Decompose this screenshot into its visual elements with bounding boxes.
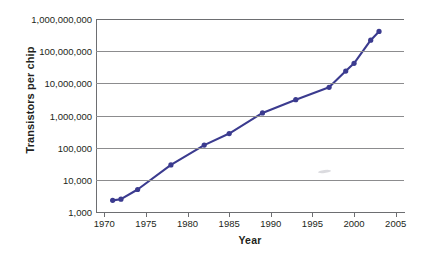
x-axis-tick (104, 213, 105, 217)
gridline (96, 19, 404, 20)
x-axis-tick-label: 1985 (209, 218, 249, 229)
x-axis-tick (146, 213, 147, 217)
data-point-marker (376, 29, 381, 34)
data-point-marker (135, 187, 140, 192)
data-point-marker (227, 131, 232, 136)
x-axis-tick-label: 2005 (376, 218, 416, 229)
y-axis-tick-label: 10,000,000 (0, 78, 92, 89)
gridline (96, 180, 404, 181)
gridline (96, 51, 404, 52)
data-point-marker (368, 38, 373, 43)
x-axis-tick (271, 213, 272, 217)
x-axis-tick-label: 1990 (251, 218, 291, 229)
x-axis-tick (188, 213, 189, 217)
x-axis-tick-label: 1970 (84, 218, 124, 229)
gridline (96, 83, 404, 84)
data-point-marker (343, 69, 348, 74)
y-axis-tick-label: 1,000,000 (0, 110, 92, 121)
y-axis-tick-label: 100,000 (0, 142, 92, 153)
plot-area (96, 19, 404, 212)
x-axis-tick (396, 213, 397, 217)
x-axis-tick (354, 213, 355, 217)
y-axis-tick-label: 100,000,000 (0, 46, 92, 57)
data-point-marker (118, 197, 123, 202)
x-axis-tick-label: 2000 (334, 218, 374, 229)
x-axis-title: Year (96, 234, 404, 246)
transistors-per-chip-chart: Transistors per chip 1,00010,000100,0001… (0, 0, 430, 259)
gridline (96, 116, 404, 117)
gridline (96, 148, 404, 149)
x-axis-tick (229, 213, 230, 217)
data-point-marker (351, 61, 356, 66)
x-axis-tick-label: 1995 (292, 218, 332, 229)
y-axis-tick-label: 1,000,000,000 (0, 14, 92, 25)
x-axis-tick (312, 213, 313, 217)
data-point-marker (110, 198, 115, 203)
y-axis-tick-label: 10,000 (0, 174, 92, 185)
y-axis-tick-labels: 1,00010,000100,0001,000,00010,000,000100… (0, 0, 92, 259)
x-axis-tick-label: 1980 (168, 218, 208, 229)
x-axis-line (96, 212, 405, 213)
y-axis-tick-label: 1,000 (0, 207, 92, 218)
data-point-marker (326, 85, 331, 90)
data-point-marker (168, 162, 173, 167)
data-point-marker (293, 97, 298, 102)
x-axis-tick-label: 1975 (126, 218, 166, 229)
